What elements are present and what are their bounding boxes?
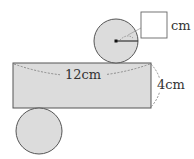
bottom-circle [16, 108, 62, 154]
answer-box[interactable] [141, 12, 167, 38]
height-label: 4cm [157, 77, 185, 92]
cylinder-net-diagram: 12cm 4cm cm [0, 0, 194, 159]
unit-label: cm [171, 18, 191, 33]
center-dot [115, 40, 118, 43]
width-label: 12cm [65, 67, 101, 82]
